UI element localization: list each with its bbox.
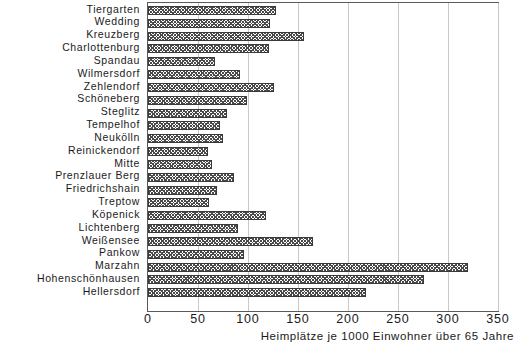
bar (148, 44, 269, 53)
bar (148, 160, 212, 169)
category-label: Pankow (99, 246, 140, 258)
bar (148, 6, 276, 15)
category-label: Tiergarten (87, 3, 140, 15)
bar (148, 224, 238, 233)
x-tick-label: 300 (436, 312, 459, 326)
category-label: Neukölln (94, 131, 140, 143)
bar (148, 275, 424, 284)
bar (148, 32, 304, 41)
category-label: Schöneberg (77, 92, 140, 104)
bar (148, 173, 234, 182)
category-label: Hellersdorf (83, 285, 140, 297)
category-label: Spandau (94, 54, 140, 66)
x-tick-label: 0 (144, 312, 152, 326)
x-tick-label: 350 (486, 312, 509, 326)
bar (148, 134, 223, 143)
x-tick-label: 200 (336, 312, 359, 326)
x-tick-label: 50 (190, 312, 206, 326)
bar-chart: TiergartenWeddingKreuzbergCharlottenburg… (0, 0, 518, 348)
category-label: Reinickendorf (68, 144, 140, 156)
category-label: Steglitz (101, 105, 140, 117)
category-label: Charlottenburg (62, 41, 140, 53)
bar (148, 70, 240, 79)
category-label: Hohenschönhausen (37, 272, 140, 284)
bar (148, 211, 266, 220)
bar (148, 83, 274, 92)
bars-layer (148, 3, 498, 311)
gridline (498, 3, 499, 311)
category-label: Friedrichshain (66, 182, 140, 194)
category-label: Mitte (114, 157, 140, 169)
category-label: Wilmersdorf (77, 67, 140, 79)
bar (148, 288, 366, 297)
bar (148, 57, 215, 66)
category-axis: TiergartenWeddingKreuzbergCharlottenburg… (0, 0, 144, 312)
category-label: Treptow (98, 195, 140, 207)
bar (148, 250, 244, 259)
x-tick-label: 150 (286, 312, 309, 326)
category-label: Zehlendorf (84, 80, 140, 92)
bar (148, 237, 313, 246)
bar (148, 147, 208, 156)
category-label: Prenzlauer Berg (55, 169, 140, 181)
bar (148, 263, 468, 272)
category-label: Köpenick (92, 208, 140, 220)
bar (148, 109, 227, 118)
value-axis: 050100150200250300350 (147, 312, 499, 330)
category-label: Weißensee (82, 234, 140, 246)
category-label: Marzahn (95, 259, 140, 271)
bar (148, 121, 220, 130)
category-label: Lichtenberg (79, 221, 140, 233)
category-label: Kreuzberg (86, 28, 140, 40)
category-label: Tempelhof (86, 118, 140, 130)
bar (148, 198, 209, 207)
x-tick-label: 250 (386, 312, 409, 326)
plot-area (147, 2, 499, 312)
bar (148, 186, 217, 195)
bar (148, 19, 270, 28)
category-label: Wedding (95, 15, 140, 27)
bar (148, 96, 247, 105)
x-tick-label: 100 (236, 312, 259, 326)
x-axis-label: Heimplätze je 1000 Einwohner über 65 Jah… (0, 330, 514, 342)
